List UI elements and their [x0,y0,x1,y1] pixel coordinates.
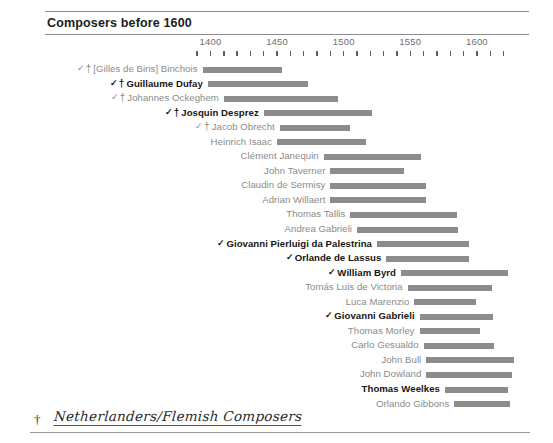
composer-name-text: John Dowland [360,368,421,379]
lifespan-bar [350,212,457,218]
composer-name-label: John Dowland [360,367,421,382]
axis-tick-mark [396,51,397,56]
lifespan-bar [386,256,469,262]
check-mark-icon: ✓ [328,265,336,280]
lifespan-bar [401,270,508,276]
composer-name-text: Josquin Desprez [181,107,259,118]
axis-tick-mark [236,51,237,56]
lifespan-bar [445,387,508,393]
timeline-row: ✓†Josquin Desprez [0,106,553,121]
timeline-row: ✓Giovanni Gabrieli [0,309,553,324]
check-mark-icon: ✓ [165,105,173,120]
dagger-mark-icon: † [120,91,126,106]
check-mark-icon: ✓ [110,76,118,91]
timeline-row: ✓†Guillaume Dufay [0,77,553,92]
lifespan-bar [264,110,372,116]
axis-tick-mark [263,51,264,56]
composer-name-label: ✓†Josquin Desprez [165,106,259,121]
lifespan-bar [324,154,421,160]
check-mark-icon: ✓ [111,90,119,105]
axis-tick-mark [490,51,491,56]
composer-name-text: Orlando Gibbons [376,398,449,409]
dagger-mark-icon: † [86,62,92,77]
dagger-mark-icon: † [119,77,125,92]
check-mark-icon: ✓ [217,236,225,251]
axis-tick-mark [250,51,251,56]
lifespan-bar [426,372,511,378]
timeline-row: ✓†[Gilles de Bins] Binchois [0,62,553,77]
check-mark-icon: ✓ [286,250,294,265]
composer-name-label: ✓†Guillaume Dufay [110,77,203,92]
axis-tick-mark [436,51,437,56]
composer-name-label: Luca Marenzio [346,295,410,310]
dagger-mark-icon: † [174,106,180,121]
composer-name-text: Thomas Tallis [286,208,345,219]
timeline-row: Luca Marenzio [0,295,553,310]
axis-tick-label: 1400 [200,36,222,47]
composer-name-label: ✓Giovanni Gabrieli [325,309,414,324]
composer-name-text: Andrea Gabrieli [285,223,352,234]
composer-name-label: ✓Orlande de Lassus [286,251,382,266]
composer-name-label: ✓Giovanni Pierluigi da Palestrina [217,237,372,252]
timeline-row: Clément Janequin [0,149,553,164]
lifespan-bar [208,81,308,87]
composer-name-label: Carlo Gesualdo [351,338,418,353]
lifespan-bar [414,299,475,305]
lifespan-bar [420,314,493,320]
check-mark-icon: ✓ [77,61,85,76]
timeline-row: Andrea Gabrieli [0,222,553,237]
footnote-dagger-icon: † [34,412,41,428]
composer-name-text: Thomas Weelkes [362,383,440,394]
composer-name-text: Johannes Ockeghem [127,92,219,103]
composer-name-text: [Gilles de Bins] Binchois [93,63,197,74]
timeline-row: ✓William Byrd [0,266,553,281]
footnote-block: † Netherlanders/Flemish Composers [30,408,530,438]
axis-tick-mark [476,51,477,56]
axis-tick-label: 1450 [266,36,288,47]
composer-name-label: John Taverner [264,164,325,179]
timeline-row: John Dowland [0,367,553,382]
axis-tick-mark [423,51,424,56]
composer-name-text: Clément Janequin [241,150,319,161]
composer-rows: ✓†[Gilles de Bins] Binchois✓†Guillaume D… [0,62,553,411]
axis-tick-mark [343,51,344,56]
composer-name-label: Thomas Morley [348,324,415,339]
composer-name-label: ✓†Jacob Obrecht [195,120,275,135]
composer-name-label: Andrea Gabrieli [285,222,352,237]
axis-tick-label: 1600 [466,36,488,47]
composer-name-text: Thomas Morley [348,325,415,336]
composer-name-text: John Bull [381,354,421,365]
composer-name-text: Jacob Obrecht [212,121,275,132]
axis-tick-mark [463,51,464,56]
lifespan-bar [330,168,403,174]
composer-name-label: Claudin de Sermisy [241,178,325,193]
lifespan-bar [426,357,514,363]
composer-name-label: John Bull [381,353,421,368]
dagger-mark-icon: † [204,120,210,135]
axis-tick-mark [223,51,224,56]
composer-name-text: Carlo Gesualdo [351,339,418,350]
timeline-row: ✓†Johannes Ockeghem [0,91,553,106]
timeline-chart-page: Composers before 1600 140014501500155016… [0,0,553,443]
timeline-row: Thomas Weelkes [0,382,553,397]
page-title: Composers before 1600 [45,12,529,34]
composer-name-text: Luca Marenzio [346,296,410,307]
composer-name-text: Guillaume Dufay [126,78,202,89]
lifespan-bar [224,96,339,102]
timeline-row: Thomas Morley [0,324,553,339]
composer-name-text: Tomás Luis de Victoria [305,281,402,292]
axis-tick-mark [330,51,331,56]
composer-name-label: Clément Janequin [241,149,319,164]
axis-tick-mark [290,51,291,56]
axis-tick-mark [450,51,451,56]
axis-tick-label: 1550 [399,36,421,47]
composer-name-label: ✓†[Gilles de Bins] Binchois [77,62,198,77]
lifespan-bar [377,241,469,247]
axis-tick-mark [503,51,504,56]
composer-name-text: Heinrich Isaac [211,136,273,147]
title-block: Composers before 1600 [45,11,529,35]
title-rule-bottom [45,34,529,35]
timeline-row: ✓Giovanni Pierluigi da Palestrina [0,237,553,252]
axis-tick-mark [196,51,197,56]
timeline-row: John Taverner [0,164,553,179]
